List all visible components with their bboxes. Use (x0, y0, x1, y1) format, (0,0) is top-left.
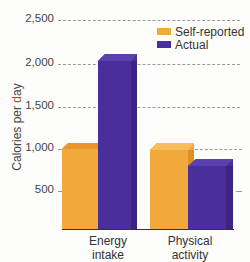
legend: Self-reported Actual (157, 25, 244, 51)
gridline-1000-right (195, 149, 242, 150)
bar-energy-actual (98, 52, 138, 230)
legend-swatch-actual (157, 41, 171, 48)
gridline-2500 (58, 20, 240, 21)
x-label-energy-intake: Energyintake (78, 234, 138, 262)
legend-label-actual: Actual (175, 38, 208, 52)
y-tick-2500: 2,500 (18, 12, 54, 24)
y-tick-500: 500 (18, 183, 54, 195)
bar-activity-actual (188, 156, 234, 230)
y-tick-2000: 2,000 (18, 56, 54, 68)
legend-item-self-reported: Self-reported (157, 25, 244, 38)
bar-energy-self-reported (62, 140, 100, 230)
gridline-500-right (236, 191, 242, 192)
gridline-1500 (58, 107, 240, 108)
x-label-physical-activity: Physicalactivity (160, 234, 220, 262)
x-axis (62, 229, 234, 230)
legend-swatch-self-reported (157, 28, 171, 35)
legend-item-actual: Actual (157, 38, 244, 51)
gridline-2000 (58, 64, 240, 65)
legend-label-self-reported: Self-reported (175, 25, 244, 39)
y-axis-label: Calories per day (10, 72, 24, 182)
